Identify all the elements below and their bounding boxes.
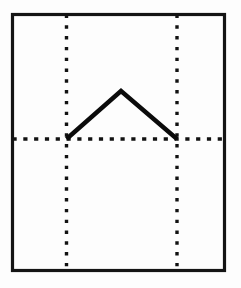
figure-container: Chevron peak line diagram <box>0 0 241 288</box>
chevron-peak-polyline <box>67 91 178 139</box>
diagram-canvas <box>0 0 241 288</box>
plot-border-rectangle <box>13 15 225 271</box>
